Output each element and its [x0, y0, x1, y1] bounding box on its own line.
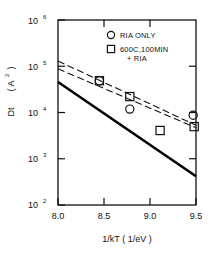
y-axis-title-unit-close: )	[6, 67, 16, 70]
trend-lines	[58, 61, 196, 176]
y-axis-title: Dt ( A 2 )	[4, 67, 16, 117]
y-axis-title-main: Dt	[6, 107, 16, 116]
y-tick-exponent: 2	[43, 198, 47, 204]
legend-label-ria-only: RIA ONLY	[120, 31, 156, 40]
legend-square-icon	[107, 45, 114, 52]
y-tick-label-1e3: 10 3	[28, 152, 47, 164]
y-tick-mantissa: 10	[28, 200, 38, 210]
reference-line-solid	[58, 82, 196, 176]
y-tick-mantissa: 10	[28, 154, 38, 164]
x-tick-label-9-0: 9.0	[144, 211, 157, 221]
y-axis-title-unit: ( A	[6, 80, 16, 91]
legend-label-anneal: 600C,100MIN	[120, 45, 168, 54]
x-tick-label-8-0: 8.0	[52, 211, 65, 221]
y-tick-exponent: 6	[43, 14, 47, 20]
x-axis-ticks	[58, 198, 196, 205]
x-tick-label-8-5: 8.5	[98, 211, 111, 221]
y-tick-label-1e2: 10 2	[28, 198, 47, 210]
y-tick-label-1e5: 10 5	[28, 60, 47, 72]
fit-line-dashed-upper	[58, 61, 196, 125]
x-axis-ticks-top	[104, 20, 150, 27]
y-tick-mantissa: 10	[28, 62, 38, 72]
y-tick-label-1e6: 10 6	[28, 14, 47, 26]
x-axis-title: 1/kT ( 1/eV )	[102, 234, 151, 244]
fit-line-dashed-lower	[58, 69, 196, 128]
data-point-square-combo-3	[156, 126, 164, 134]
y-tick-exponent: 5	[43, 60, 47, 66]
x-tick-label-9-5: 9.5	[190, 211, 203, 221]
y-tick-label-1e4: 10 4	[28, 106, 47, 118]
y-tick-mantissa: 10	[28, 108, 38, 118]
legend: RIA ONLY 600C,100MIN + RIA	[107, 31, 168, 63]
arrhenius-plot-figure: 10 6 10 5 10 4 10 3 10 2 8.0 8.5 9.0 9.5…	[0, 0, 213, 254]
y-axis-ticks	[58, 20, 65, 205]
legend-label-plus-ria: + RIA	[127, 54, 147, 63]
legend-circle-icon	[107, 31, 114, 38]
y-tick-mantissa: 10	[28, 16, 38, 26]
y-tick-exponent: 4	[43, 106, 47, 112]
y-axis-title-unit-exponent: 2	[4, 73, 10, 77]
data-point-circle-ria-2	[126, 105, 134, 113]
y-tick-exponent: 3	[43, 152, 47, 158]
